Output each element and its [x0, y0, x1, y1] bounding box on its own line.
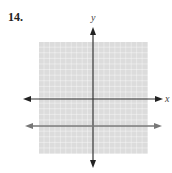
coordinate-graph: y x: [0, 0, 172, 173]
arrow-down-icon: [90, 160, 96, 168]
arrow-right-icon: [155, 96, 163, 102]
arrow-right-icon: [154, 123, 162, 129]
arrow-left-icon: [23, 96, 31, 102]
arrow-left-icon: [25, 123, 33, 129]
y-axis-label: y: [90, 12, 96, 23]
arrow-up-icon: [90, 27, 96, 35]
x-axis-label: x: [164, 93, 170, 104]
